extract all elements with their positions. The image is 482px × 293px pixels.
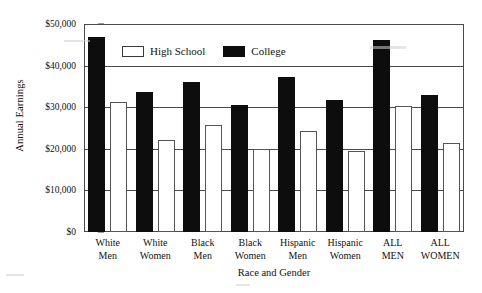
y-axis-tick-label: $20,000: [20, 144, 76, 154]
x-axis-tick-label-line: Men: [191, 249, 214, 262]
bar-high-school: [348, 151, 365, 232]
x-axis-tick-label: WhiteWomen: [140, 236, 171, 262]
legend-swatch-icon: [122, 46, 144, 57]
x-axis-tick-label-line: Women: [235, 249, 266, 262]
bar-college: [373, 40, 390, 232]
x-axis-tick-label-line: ALL: [421, 236, 460, 249]
legend-item: College: [223, 45, 285, 57]
bar-college: [183, 82, 200, 232]
x-axis-tick-label-line: White: [140, 236, 171, 249]
y-axis-tick-label: $0: [20, 227, 76, 237]
bar-college: [421, 95, 438, 232]
y-axis-tick-label: $40,000: [20, 61, 76, 71]
legend-swatch-icon: [223, 46, 245, 57]
x-axis-title: Race and Gender: [84, 267, 464, 278]
x-axis-tick-label-line: Black: [191, 236, 214, 249]
bar-high-school: [253, 149, 270, 232]
x-axis-tick-label: BlackWomen: [235, 236, 266, 262]
y-axis-tick-labels: $0$10,000$20,000$30,000$40,000$50,000: [20, 0, 76, 293]
x-axis-tick-label: BlackMen: [191, 236, 214, 262]
x-axis-tick-label-line: Hispanic: [280, 236, 316, 249]
bar-high-school: [300, 131, 317, 232]
x-axis-tick-label-line: Hispanic: [327, 236, 363, 249]
bar-high-school: [395, 106, 412, 232]
bar-high-school: [158, 140, 175, 232]
x-axis-tick-label: ALLWOMEN: [421, 236, 460, 262]
x-axis-tick-label-line: Black: [235, 236, 266, 249]
earnings-bar-chart: Annual Earnings $0$10,000$20,000$30,000$…: [0, 0, 482, 293]
bar-high-school: [205, 125, 222, 232]
bar-college: [326, 100, 343, 232]
x-axis-tick-label-line: Men: [96, 249, 120, 262]
x-axis-tick-label-line: Women: [327, 249, 363, 262]
x-axis-tick-label: WhiteMen: [96, 236, 120, 262]
x-axis-tick-label-line: ALL: [382, 236, 404, 249]
x-axis-tick-label-line: Men: [280, 249, 316, 262]
y-axis-tick-label: $30,000: [20, 102, 76, 112]
x-axis-tick-label: HispanicWomen: [327, 236, 363, 262]
scan-speckle: [370, 46, 406, 49]
x-axis-tick-label: ALLMEN: [382, 236, 404, 262]
legend-label: College: [251, 45, 285, 57]
scan-speckle: [6, 274, 24, 276]
bar-college: [231, 105, 248, 232]
x-axis-tick-label-line: MEN: [382, 249, 404, 262]
scan-speckle: [64, 40, 90, 42]
bar-high-school: [110, 102, 127, 232]
x-axis-tick-label-line: Women: [140, 249, 171, 262]
x-axis-tick-label-line: White: [96, 236, 120, 249]
x-axis-tick-label-line: WOMEN: [421, 249, 460, 262]
scan-speckle: [236, 284, 250, 286]
bar-high-school: [443, 143, 460, 232]
bar-college: [88, 37, 105, 232]
bar-college: [278, 77, 295, 232]
x-axis-tick-label: HispanicMen: [280, 236, 316, 262]
chart-legend: High SchoolCollege: [118, 44, 290, 58]
legend-item: High School: [122, 45, 205, 57]
x-axis-tick-labels: WhiteMenWhiteWomenBlackMenBlackWomenHisp…: [84, 236, 464, 270]
legend-label: High School: [150, 45, 205, 57]
bar-college: [136, 92, 153, 232]
y-axis-tick-label: $50,000: [20, 19, 76, 29]
y-axis-tick-label: $10,000: [20, 185, 76, 195]
